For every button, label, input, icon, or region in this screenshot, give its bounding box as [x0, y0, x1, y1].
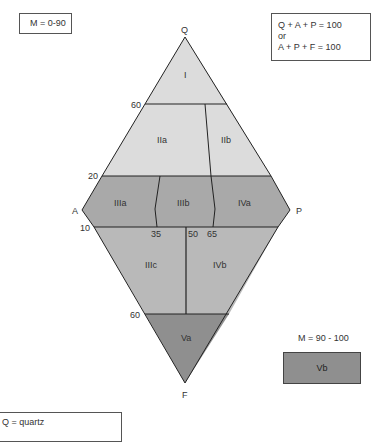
tick-f10: 10	[80, 223, 90, 233]
field-label-IIIb: IIIb	[177, 198, 190, 208]
field-label-Va: Va	[181, 333, 191, 343]
field-label-Vb: Vb	[316, 363, 327, 373]
legend-box: Q = quartz	[0, 412, 122, 442]
field-Vb-box: Vb	[283, 352, 361, 384]
tick-q20: 20	[88, 171, 98, 181]
apex-p-label: P	[296, 206, 302, 216]
field-label-IIIa: IIIa	[114, 198, 127, 208]
tick-p50: 50	[188, 229, 198, 239]
vb-m-range-label: M = 90 - 100	[298, 333, 349, 343]
apex-q-label: Q	[181, 25, 188, 35]
tick-p35: 35	[151, 229, 161, 239]
legend-item-quartz: Q = quartz	[2, 417, 121, 427]
field-label-IVb: IVb	[213, 260, 227, 270]
field-label-IIb: IIb	[221, 135, 231, 145]
tick-q60: 60	[131, 100, 141, 110]
tick-f60: 60	[130, 310, 140, 320]
field-Va	[145, 314, 229, 383]
tick-p65: 65	[207, 229, 217, 239]
field-label-I: I	[184, 70, 187, 80]
field-II	[102, 104, 271, 176]
field-label-IIIc: IIIc	[145, 260, 158, 270]
apex-a-label: A	[72, 206, 78, 216]
apex-f-label: F	[182, 390, 188, 400]
field-label-IVa: IVa	[238, 198, 251, 208]
field-label-IIa: IIa	[157, 135, 167, 145]
